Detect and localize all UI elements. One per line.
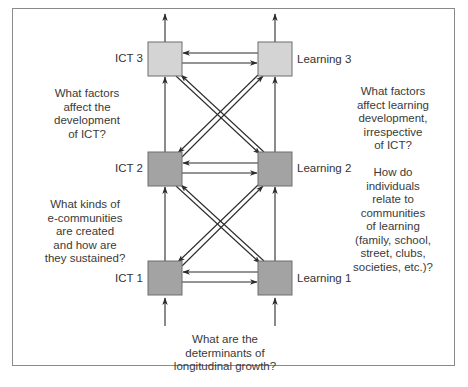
learning2-label: Learning 2 bbox=[297, 162, 351, 176]
question-learning-development: What factors affect learning development… bbox=[346, 85, 440, 153]
node-box-learning2 bbox=[258, 152, 292, 186]
node-box-ict3 bbox=[148, 42, 182, 76]
learning1-label: Learning 1 bbox=[297, 272, 351, 286]
learning3-label: Learning 3 bbox=[297, 53, 351, 67]
node-box-learning3 bbox=[258, 42, 292, 76]
ict2-label: ICT 2 bbox=[115, 162, 143, 176]
question-ict-development: What factors affect the development of I… bbox=[52, 87, 122, 141]
node-box-learning1 bbox=[258, 261, 292, 295]
arrow-learning2-to-ict3 bbox=[181, 75, 264, 152]
node-box-ict2 bbox=[148, 152, 182, 186]
node-box-ict1 bbox=[148, 261, 182, 295]
ict1-label: ICT 1 bbox=[115, 272, 143, 286]
question-longitudinal-growth: What are the determinants of longitudina… bbox=[160, 333, 290, 374]
question-e-communities: What kinds of e-communities are created … bbox=[40, 198, 130, 266]
ict3-label: ICT 3 bbox=[115, 52, 143, 66]
question-communities-of-learning: How do individuals relate to communities… bbox=[346, 166, 440, 274]
arrow-learning1-to-ict2 bbox=[181, 185, 264, 261]
